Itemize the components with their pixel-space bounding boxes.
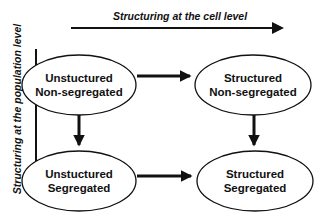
node-structured-segregated: Structured Segregated xyxy=(197,151,313,211)
node-label-line2: Non-segregated xyxy=(209,85,297,99)
node-label-line1: Structured xyxy=(226,167,284,181)
node-label-line1: Unstuctured xyxy=(45,71,113,85)
node-label-line2: Non-segregated xyxy=(35,85,123,99)
node-label-line1: Unstuctured xyxy=(45,167,113,181)
node-unstructured-non-segregated: Unstuctured Non-segregated xyxy=(22,55,136,115)
node-structured-non-segregated: Structured Non-segregated xyxy=(195,55,311,115)
cell-level-axis-label: Structuring at the cell level xyxy=(70,10,290,22)
node-label-line2: Segregated xyxy=(48,181,111,195)
node-unstructured-segregated: Unstuctured Segregated xyxy=(22,151,136,211)
node-label-line2: Segregated xyxy=(224,181,287,195)
node-label-line1: Structured xyxy=(224,71,282,85)
